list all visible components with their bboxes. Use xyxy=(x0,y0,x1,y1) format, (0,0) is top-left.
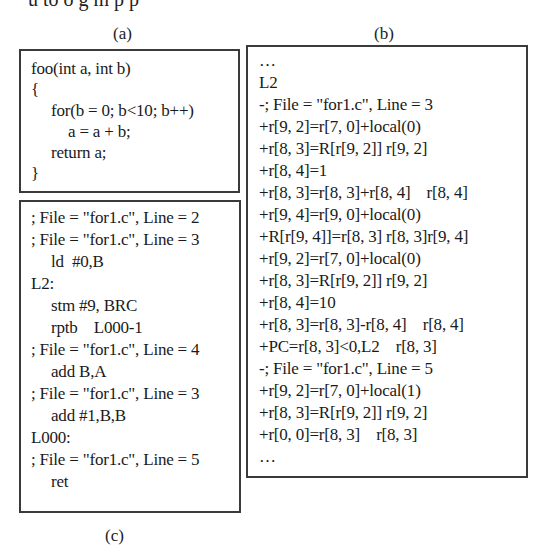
cropped-header-text: u to o g m p p xyxy=(0,0,548,10)
ir-line: … xyxy=(259,447,276,467)
ir-line: -; File = "for1.c", Line = 5 xyxy=(259,359,433,379)
code-line: for(b = 0; b<10; b++) xyxy=(51,101,194,121)
ir-line: … xyxy=(259,51,276,71)
asm-line: add B,A xyxy=(51,362,106,382)
panel-b-intermediate-code: … L2 -; File = "for1.c", Line = 3 +r[9, … xyxy=(246,45,528,478)
label-c: (c) xyxy=(105,526,124,546)
code-line: { xyxy=(31,80,39,100)
code-line: foo(int a, int b) xyxy=(31,59,131,79)
ir-line: +PC=r[8, 3]<0,L2 r[8, 3] xyxy=(259,337,437,357)
asm-line: ; File = "for1.c", Line = 3 xyxy=(31,384,199,404)
ir-line: +r[8, 3]=r[8, 3]+r[8, 4] r[8, 4] xyxy=(259,183,468,203)
asm-line: L2: xyxy=(31,274,54,294)
ir-line: +r[8, 4]=10 xyxy=(259,293,335,313)
asm-line: ld #0,B xyxy=(51,252,104,272)
ir-line: +r[8, 4]=1 xyxy=(259,161,327,181)
ir-line: +r[9, 2]=r[7, 0]+local(0) xyxy=(259,249,421,269)
asm-line: ; File = "for1.c", Line = 3 xyxy=(31,230,199,250)
asm-line: L000: xyxy=(31,428,71,448)
asm-line: rptb L000-1 xyxy=(51,318,143,338)
panel-a-source-code: foo(int a, int b) { for(b = 0; b<10; b++… xyxy=(19,49,240,193)
panel-c-assembly-code: ; File = "for1.c", Line = 2 ; File = "fo… xyxy=(19,200,241,513)
ir-line: +r[9, 2]=r[7, 0]+local(0) xyxy=(259,117,421,137)
ir-line: +R[r[9, 4]]=r[8, 3] r[8, 3]r[9, 4] xyxy=(259,227,468,247)
asm-line: ; File = "for1.c", Line = 2 xyxy=(31,208,199,228)
asm-line: add #1,B,B xyxy=(51,406,126,426)
code-line: return a; xyxy=(51,143,106,163)
asm-line: ; File = "for1.c", Line = 4 xyxy=(31,340,199,360)
ir-line: -; File = "for1.c", Line = 3 xyxy=(259,95,433,115)
ir-line: +r[8, 3]=R[r[9, 2]] r[9, 2] xyxy=(259,139,427,159)
code-line: } xyxy=(31,164,39,184)
asm-line: ; File = "for1.c", Line = 5 xyxy=(31,450,199,470)
ir-line: L2 xyxy=(259,73,277,93)
asm-line: ret xyxy=(51,472,68,492)
ir-line: +r[8, 3]=R[r[9, 2]] r[9, 2] xyxy=(259,271,427,291)
asm-line: stm #9, BRC xyxy=(51,296,137,316)
label-a: (a) xyxy=(113,24,132,44)
ir-line: +r[9, 4]=r[9, 0]+local(0) xyxy=(259,205,421,225)
ir-line: +r[0, 0]=r[8, 3] r[8, 3] xyxy=(259,425,417,445)
ir-line: +r[8, 3]=R[r[9, 2]] r[9, 2] xyxy=(259,403,427,423)
label-b: (b) xyxy=(374,24,394,44)
ir-line: +r[8, 3]=r[8, 3]-r[8, 4] r[8, 4] xyxy=(259,315,464,335)
ir-line: +r[9, 2]=r[7, 0]+local(1) xyxy=(259,381,421,401)
code-line: a = a + b; xyxy=(68,122,131,142)
